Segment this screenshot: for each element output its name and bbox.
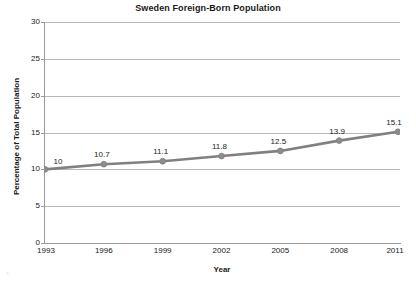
x-axis-title: Year [44, 265, 400, 274]
data-value-label: 12.5 [260, 137, 296, 146]
data-value-label: 15.1 [376, 118, 412, 127]
x-tick-label: 2005 [260, 246, 300, 256]
scan-artifact: ° [6, 272, 9, 279]
y-tick-mark [41, 22, 45, 23]
chart-container: Sweden Foreign-Born Population Percentag… [0, 0, 416, 283]
data-value-label: 10.7 [84, 150, 120, 159]
x-tick-label: 2008 [319, 246, 359, 256]
y-tick-mark [41, 243, 45, 244]
y-tick-mark [41, 206, 45, 207]
x-tick-label: 2002 [202, 246, 242, 256]
x-tick-label: 1993 [26, 246, 66, 256]
y-tick-mark [41, 59, 45, 60]
x-tick-label: 1999 [143, 246, 183, 256]
data-point-labels: 1010.711.111.812.513.915.1 [0, 0, 416, 283]
x-axis-tick-labels: 1993199619992002200520082011 [0, 246, 416, 260]
data-value-label: 11.1 [143, 147, 179, 156]
x-tick-label: 1996 [84, 246, 124, 256]
data-value-label: 13.9 [319, 127, 355, 136]
y-tick-mark [41, 169, 45, 170]
x-tick-label: 2011 [375, 246, 415, 256]
y-tick-mark [41, 96, 45, 97]
data-value-label: 11.8 [202, 142, 238, 151]
data-value-label: 10 [40, 157, 76, 166]
y-tick-mark [41, 133, 45, 134]
